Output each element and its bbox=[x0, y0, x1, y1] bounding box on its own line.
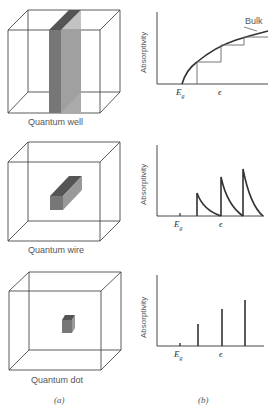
eps-tick-bulk: ϵ bbox=[218, 87, 222, 97]
eps-tick-wire: ϵ bbox=[219, 219, 223, 229]
quantum-dot-box bbox=[62, 315, 75, 333]
wire-chart bbox=[157, 145, 264, 216]
eg-tick-wire: Eg bbox=[174, 219, 183, 231]
quantum-well-label: Quantum well bbox=[28, 117, 83, 127]
eg-tick-dot: Eg bbox=[174, 349, 183, 361]
eps-tick-dot: ϵ bbox=[219, 349, 223, 359]
quantum-dot-label: Quantum dot bbox=[31, 375, 83, 385]
ylabel-bulk: Absorptivity bbox=[139, 32, 148, 73]
quantum-wire-bar bbox=[50, 176, 82, 210]
figure-canvas bbox=[0, 0, 272, 408]
quantum-well-slab bbox=[49, 10, 81, 113]
ylabel-dot: Absorptivity bbox=[139, 297, 148, 338]
caption-a: (a) bbox=[54, 395, 65, 405]
ylabel-wire: Absorptivity bbox=[139, 164, 148, 205]
dot-chart bbox=[157, 275, 264, 346]
caption-b: (b) bbox=[198, 395, 209, 405]
quantum-wire-label: Quantum wire bbox=[28, 245, 84, 255]
bulk-label: Bulk bbox=[245, 16, 263, 26]
eg-tick-bulk: Eg bbox=[176, 87, 185, 99]
